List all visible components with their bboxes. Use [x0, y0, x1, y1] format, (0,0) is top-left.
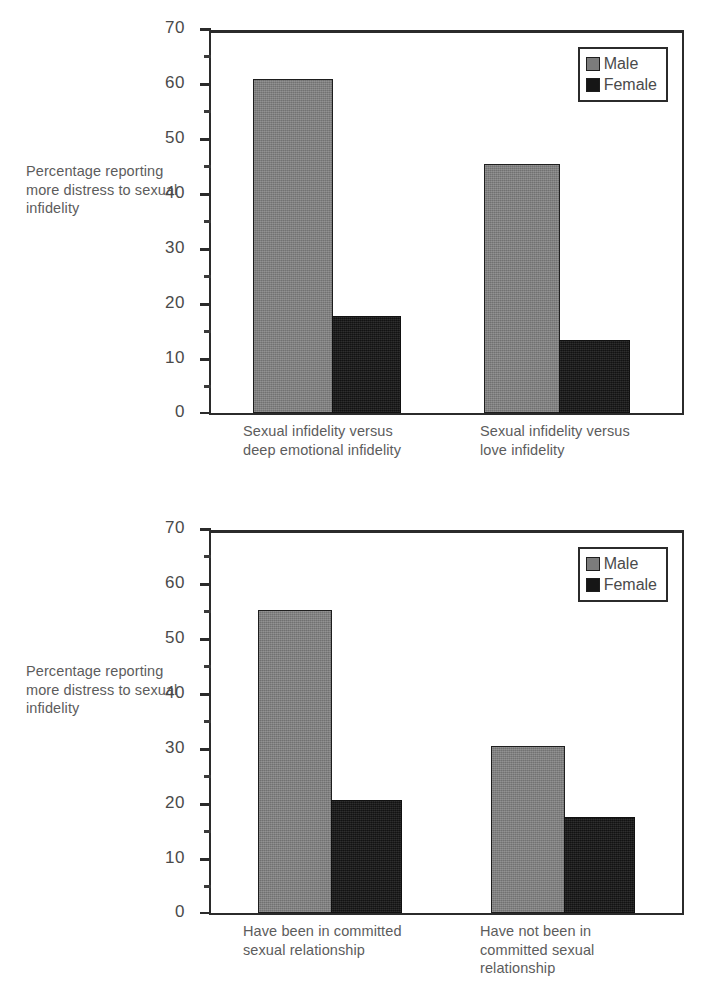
legend-top: Male Female [578, 47, 668, 102]
bar-male-group-1 [253, 79, 333, 413]
legend-row-male: Male [586, 53, 657, 74]
ytick-label-20: 20 [165, 293, 185, 313]
ytick-major-70: 70 [200, 528, 211, 531]
figure-top: Percentage reporting more distress to se… [0, 0, 716, 500]
ytick-major-50: 50 [200, 638, 211, 641]
ytick-major-0: 0 [200, 912, 211, 915]
ytick-label-0: 0 [175, 902, 185, 922]
ytick-minor-5 [204, 885, 211, 888]
legend-swatch-male-icon [586, 557, 600, 571]
ytick-minor-15 [204, 830, 211, 833]
ytick-minor-65 [204, 555, 211, 558]
legend-label-female: Female [604, 77, 657, 93]
category-label-2: Have not been in committed sexual relati… [480, 922, 594, 978]
legend-row-female: Female [586, 574, 657, 595]
ytick-label-60: 60 [165, 573, 185, 593]
ytick-label-70: 70 [165, 18, 185, 38]
y-axis-caption: Percentage reporting more distress to se… [26, 662, 186, 718]
bar-female-group-1 [331, 800, 402, 913]
ytick-minor-25 [204, 275, 211, 278]
ytick-major-60: 60 [200, 83, 211, 86]
y-axis-caption: Percentage reporting more distress to se… [26, 162, 186, 218]
ytick-minor-35 [204, 220, 211, 223]
bar-male-group-2 [484, 164, 560, 413]
ytick-major-50: 50 [200, 138, 211, 141]
ytick-minor-25 [204, 775, 211, 778]
ytick-major-40: 40 [200, 693, 211, 696]
ytick-label-40: 40 [165, 183, 185, 203]
ytick-major-30: 30 [200, 748, 211, 751]
bar-male-group-2 [491, 746, 565, 913]
ytick-minor-45 [204, 165, 211, 168]
ytick-label-20: 20 [165, 793, 185, 813]
legend-swatch-female-icon [586, 78, 600, 92]
ytick-label-50: 50 [165, 128, 185, 148]
figure-bottom: Percentage reporting more distress to se… [0, 500, 716, 1000]
ytick-minor-65 [204, 55, 211, 58]
ytick-minor-35 [204, 720, 211, 723]
legend-swatch-male-icon [586, 57, 600, 71]
bar-male-group-1 [258, 610, 332, 913]
legend-label-female: Female [604, 577, 657, 593]
ytick-label-30: 30 [165, 238, 185, 258]
ytick-label-0: 0 [175, 402, 185, 422]
ytick-minor-55 [204, 110, 211, 113]
ytick-major-40: 40 [200, 193, 211, 196]
ytick-label-10: 10 [165, 348, 185, 368]
ytick-major-20: 20 [200, 303, 211, 306]
legend-label-male: Male [604, 556, 639, 572]
ytick-major-70: 70 [200, 28, 211, 31]
ytick-major-60: 60 [200, 583, 211, 586]
legend-bottom: Male Female [578, 547, 668, 602]
category-label-1: Sexual infidelity versus deep emotional … [243, 422, 401, 459]
legend-row-female: Female [586, 74, 657, 95]
ytick-major-0: 0 [200, 412, 211, 415]
ytick-minor-5 [204, 385, 211, 388]
ytick-label-70: 70 [165, 518, 185, 538]
bar-female-group-1 [332, 316, 401, 413]
category-label-2: Sexual infidelity versus love infidelity [480, 422, 630, 459]
plot-area-top: 0 10 20 30 40 50 60 70 Male [209, 30, 684, 415]
bar-female-group-2 [564, 817, 635, 913]
ytick-major-30: 30 [200, 248, 211, 251]
legend-label-male: Male [604, 56, 639, 72]
category-label-1: Have been in committed sexual relationsh… [243, 922, 402, 959]
ytick-minor-55 [204, 610, 211, 613]
legend-row-male: Male [586, 553, 657, 574]
ytick-label-50: 50 [165, 628, 185, 648]
ytick-minor-45 [204, 665, 211, 668]
ytick-label-30: 30 [165, 738, 185, 758]
ytick-label-10: 10 [165, 848, 185, 868]
plot-area-bottom: 0 10 20 30 40 50 60 70 Male [209, 530, 684, 915]
ytick-major-20: 20 [200, 803, 211, 806]
ytick-label-60: 60 [165, 73, 185, 93]
legend-swatch-female-icon [586, 578, 600, 592]
bar-female-group-2 [559, 340, 630, 413]
ytick-major-10: 10 [200, 858, 211, 861]
ytick-major-10: 10 [200, 358, 211, 361]
ytick-label-40: 40 [165, 683, 185, 703]
ytick-minor-15 [204, 330, 211, 333]
